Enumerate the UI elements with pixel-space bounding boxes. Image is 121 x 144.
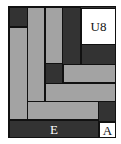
puzzle-piece-gray-col-2[interactable] [27, 7, 45, 102]
puzzle-piece-dark-top-left[interactable] [9, 7, 28, 27]
puzzle-piece-gray-bar-1[interactable] [63, 64, 116, 83]
puzzle-piece-white-a[interactable]: A [99, 122, 116, 138]
puzzle-piece-dark-right-low[interactable] [98, 101, 116, 122]
puzzle-piece-dark-right[interactable] [81, 44, 116, 65]
puzzle-piece-gray-col-3[interactable] [45, 7, 63, 64]
puzzle-piece-gray-bar-2[interactable] [45, 83, 116, 102]
puzzle-piece-gray-col-1[interactable] [9, 27, 28, 120]
piece-label: U8 [82, 9, 115, 44]
puzzle-piece-gray-bar-3[interactable] [27, 101, 99, 120]
puzzle-board: U8EA [8, 6, 116, 138]
piece-label: A [100, 123, 115, 137]
puzzle-piece-dark-bottom-e[interactable]: E [9, 120, 99, 138]
puzzle-piece-dark-col[interactable] [62, 7, 81, 65]
puzzle-piece-white-u8[interactable]: U8 [81, 8, 116, 45]
piece-label: E [10, 121, 98, 137]
puzzle-piece-dark-mid[interactable] [45, 63, 63, 84]
